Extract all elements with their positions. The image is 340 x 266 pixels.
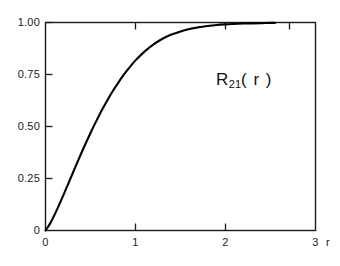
y-tick-label-0.50: 0.50 bbox=[0, 120, 40, 132]
annotation-argument: ( r ) bbox=[241, 70, 272, 89]
data-series-line bbox=[46, 23, 276, 231]
chart-figure: 1.00 0.75 0.50 0.25 0 0 1 2 3 r R21( r ) bbox=[0, 0, 340, 266]
x-tick-label-0: 0 bbox=[35, 236, 56, 248]
plot-canvas bbox=[0, 0, 340, 266]
x-axis-label: r bbox=[326, 236, 330, 248]
y-tick-label-0: 0 bbox=[0, 224, 40, 236]
curve-annotation: R21( r ) bbox=[216, 70, 272, 90]
y-tick-label-0.25: 0.25 bbox=[0, 172, 40, 184]
annotation-subscript: 21 bbox=[229, 78, 241, 90]
annotation-symbol: R bbox=[216, 70, 229, 89]
y-tick-label-1.00: 1.00 bbox=[0, 16, 40, 28]
x-axis-ticks-bottom bbox=[136, 224, 226, 231]
x-tick-label-2: 2 bbox=[215, 236, 236, 248]
x-tick-label-3: 3 bbox=[305, 236, 326, 248]
y-axis-ticks bbox=[46, 23, 53, 179]
x-tick-label-1: 1 bbox=[125, 236, 146, 248]
y-tick-label-0.75: 0.75 bbox=[0, 68, 40, 80]
plot-frame bbox=[46, 23, 316, 231]
